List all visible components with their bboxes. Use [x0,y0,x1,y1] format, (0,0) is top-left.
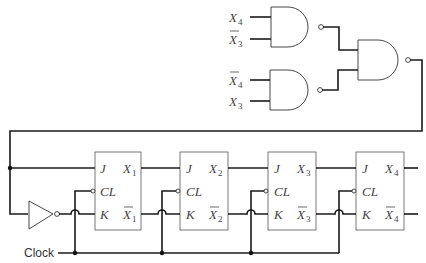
inverter [29,201,59,229]
svg-text:CL: CL [274,184,290,199]
clock-label: Clock [24,246,55,260]
svg-text:X4: X4 [228,73,243,90]
nand-gate-output [358,40,410,80]
svg-text:K: K [185,207,196,222]
svg-text:K: K [361,207,372,222]
circuit-diagram: X4 X3 X4 X3 J CL K X1 X1 J CL K X2 [0,0,426,263]
nand-gate-top [271,7,323,47]
flip-flop-1: J CL K X1 X1 [91,152,141,230]
flip-flop-2: J CL K X2 X2 [176,152,228,230]
flip-flop-3: J CL K X3 X3 [264,152,316,230]
svg-text:CL: CL [186,184,202,199]
svg-text:CL: CL [362,184,378,199]
label-x3-bar: X3 [228,31,243,49]
svg-text:K: K [273,207,284,222]
nand-gate-bottom [270,70,322,110]
svg-text:CL: CL [100,184,116,199]
label-x3: X3 [228,94,243,111]
label-x4-bar: X4 [228,72,243,90]
svg-text:X3: X3 [228,94,243,111]
svg-text:X3: X3 [228,32,243,49]
svg-text:K: K [99,207,110,222]
svg-text:X4: X4 [228,10,243,27]
label-x4: X4 [228,10,243,27]
flip-flop-4: J CL K X4 X4 [352,152,404,230]
